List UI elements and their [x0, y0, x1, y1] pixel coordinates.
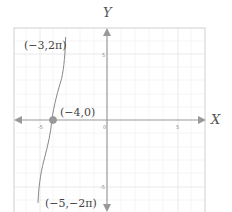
y-axis-down-arrow-icon	[103, 204, 111, 212]
point-marker	[49, 116, 56, 123]
tick-y-neg5: -5	[100, 184, 105, 190]
x-axis	[14, 116, 206, 124]
y-axis-up-arrow-icon	[103, 28, 111, 36]
x-axis-title: X	[210, 112, 221, 127]
x-axis-left-arrow-icon	[14, 116, 22, 124]
tick-x-5: 5	[176, 124, 179, 130]
tick-y-5: 5	[102, 52, 105, 58]
label-point-mid: (−4,0)	[60, 106, 95, 119]
graph-plot: -5 0 5 5 -5 Y X (−3,2π) (−4,0) (−5,−2π)	[0, 0, 232, 212]
tick-x-0: 0	[103, 124, 106, 130]
y-axis-title: Y	[103, 5, 113, 20]
label-point-bottom: (−5,−2π)	[45, 197, 97, 210]
label-point-top: (−3,2π)	[24, 39, 67, 52]
tick-x-neg5: -5	[38, 124, 43, 130]
